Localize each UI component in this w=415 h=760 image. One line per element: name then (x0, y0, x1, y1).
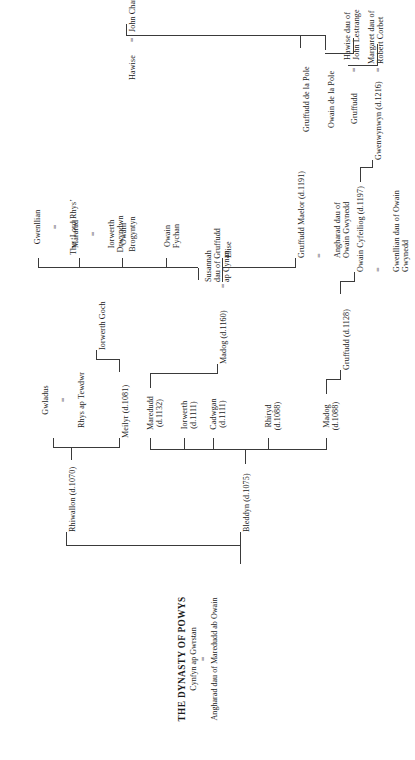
node-label: Gwenllian (33, 196, 42, 258)
connector-bleddyn-stem (245, 450, 246, 464)
connector-to-gruffudd1128 (340, 370, 341, 380)
connector-to-meilyr (119, 438, 120, 448)
node-label: Owain de la Pole (327, 52, 336, 128)
connector-maredudd-stem (150, 374, 151, 388)
node-spouse: Rhys ap Tewdwr (77, 362, 86, 438)
connector-gen4-bus-iorwerth-goch (38, 267, 198, 268)
connector-to-owain-fychan (166, 258, 167, 268)
node-gwenwynwyn-marriage: = (365, 66, 392, 74)
connector-to-gwenllian (38, 258, 39, 268)
connector-gen3-bus-meilyr (96, 359, 120, 360)
node-gwladus: Gwladus = Rhys ap Tewdwr (32, 362, 95, 438)
connector-iorwerth-goch-stem (198, 268, 199, 280)
marriage-symbol: = (89, 210, 98, 258)
node-label: Cadwgan (d.1111) (209, 390, 227, 438)
connector-to-rhiryd (268, 438, 269, 450)
node-gwenllian: Gwenllian = The ‘Lord Rhys’ (24, 196, 87, 258)
connector-gruffudd-pole-stem (353, 38, 354, 54)
node-label: Maredudd (d.1132) (146, 388, 164, 438)
node-label: Gruffudd Maelor (d.1191) (297, 160, 306, 258)
connector-gen9-bus (126, 35, 302, 36)
connector-meilyr-stem (119, 360, 120, 372)
connector-to-mararad (79, 258, 80, 268)
connector-owain-cyfeiliog-stem (360, 168, 361, 182)
node-madog-1160-marriage: = (210, 282, 237, 290)
node-gruffudd-de-la-pole: Gruffudd de la Pole (293, 46, 320, 132)
connector-gen2-bus-bleddyn (150, 449, 326, 450)
connector-to-madog1088 (326, 438, 327, 450)
node-rhiryd: Rhiryd (d.1088) (255, 394, 291, 438)
node-hawise-marriage: = (119, 36, 146, 44)
node-spouse: The ‘Lord Rhys’ (69, 196, 78, 258)
root-spouse: Angharad dau of Maredudd ab Owain (210, 566, 221, 752)
node-spouse: John Charlton (128, 0, 137, 32)
node-spouse: Iorwerth Drwyndwn (107, 210, 125, 258)
connector-gen1-bus (66, 545, 241, 546)
connector-to-elise (222, 258, 223, 276)
node-madog-1160: Madog (d.1160) (210, 292, 237, 364)
node-label: Bleddyn (d.1075) (242, 466, 251, 532)
node-meilyr: Meilyr (d.1081) (112, 372, 139, 438)
connector-to-iorwerth-goch (96, 350, 97, 360)
marriage-symbol: = (128, 36, 137, 44)
marriage-symbol: = (374, 66, 383, 74)
connector-gwenwynwyn-stem (377, 44, 378, 66)
connector-gen4-bus-madog1160 (222, 267, 295, 268)
node-label: Hawise (128, 40, 137, 80)
connector-gen4-bus-gruffudd (340, 281, 354, 282)
node-spouse: Angharad dau of Owain Gwynedd (333, 160, 351, 258)
connector-gen3-bus-madog (326, 379, 340, 380)
connector-to-owain-cyfeiliog (354, 272, 355, 282)
connector-gen8-bus (300, 35, 326, 36)
connector-to-cadwgan (213, 438, 214, 450)
node-owain-fychan: Owain Fychan (154, 214, 190, 258)
node-label: Gwenwynwyn (d.1216) (374, 76, 383, 160)
node-rhiwallon: Rhiwallon (d.1070) (59, 462, 86, 532)
connector-gen5-bus (360, 167, 372, 168)
node-hawise: Hawise (119, 40, 146, 80)
marriage-symbol: = (51, 196, 60, 258)
node-maredudd: Maredudd (d.1132) (137, 388, 173, 438)
node-label: Rhiwallon (d.1070) (68, 462, 77, 532)
connector-to-gwenwynwyn (372, 160, 373, 168)
node-iorwerth-goch: Iorwerth Goch (89, 280, 116, 350)
node-gruffudd-maelor: Gruffudd Maelor (d.1191) = Angharad dau … (288, 160, 361, 258)
root-name: Cynfyn ap Gwrstan (189, 566, 200, 752)
node-label: Iorwerth (d.1111) (180, 392, 198, 438)
node-label: Gruffudd (350, 76, 359, 124)
connector-to-owain-brogyntyn (122, 258, 123, 268)
node-gwenwynwyn: Gwenwynwyn (d.1216) (365, 76, 392, 160)
node-label: Gwladus (41, 362, 50, 438)
node-label: Owain Fychan (163, 214, 181, 258)
node-hawise-spouse: John Charlton (119, 0, 146, 32)
connector-gen2-bus-rhiwallon (53, 447, 119, 448)
connector-owain-pole-stem (325, 36, 326, 50)
node-bleddyn: Bleddyn (d.1075) (233, 466, 260, 532)
node-gruffudd-1128: Gruffudd (d.1128) (333, 294, 360, 370)
node-label: Meilyr (d.1081) (121, 372, 130, 438)
connector-rhiwallon-stem (71, 448, 72, 460)
marriage-symbol: = (315, 160, 324, 258)
chart-title-block: THE DYNASTY OF POWYS Cynfyn ap Gwrstan =… (176, 566, 221, 752)
connector-to-madog1160 (217, 364, 218, 374)
page-title: THE DYNASTY OF POWYS (176, 566, 189, 752)
connector-gen3-bus-maredudd (150, 373, 217, 374)
connector-root-stem (240, 546, 241, 564)
marriage-symbol: = (59, 362, 68, 438)
node-label: Gruffudd (d.1128) (342, 294, 351, 370)
node-label: Gruffudd de la Pole (302, 46, 311, 132)
connector-to-bleddyn (240, 532, 241, 546)
connector-madog1088-stem (326, 380, 327, 394)
node-label: Madog (d.1088) (322, 394, 340, 438)
node-iorwerth: Iorwerth (d.1111) (171, 392, 207, 438)
node-spouse: Gwenllian dau of Owain Gwynedd (392, 168, 410, 272)
connector-to-iorwerth (184, 438, 185, 450)
connector-to-gwladus (53, 438, 54, 448)
connector-to-rhiwallon (66, 532, 67, 546)
connector-to-gruffudd-maelor (295, 258, 296, 268)
node-label: Madog (d.1160) (219, 292, 228, 364)
node-elise: Elise (215, 226, 242, 258)
node-label: Rhiryd (d.1088) (264, 394, 282, 438)
